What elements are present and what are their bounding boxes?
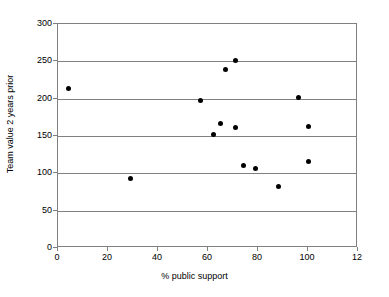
y-axis-title-text: Team value 2 years prior [5, 74, 15, 173]
data-point [306, 124, 311, 129]
plot-area [57, 23, 357, 247]
x-tick-label-40: 40 [152, 252, 162, 262]
x-tick-80 [257, 247, 258, 251]
data-point [276, 184, 281, 189]
gridline-y-250 [58, 61, 356, 62]
x-tick-label-100: 100 [299, 252, 314, 262]
gridline-y-50 [58, 211, 356, 212]
gridline-y-200 [58, 99, 356, 100]
scatter-chart: Team value 2 years prior 050100150200250… [0, 0, 389, 297]
x-tick-20 [107, 247, 108, 251]
x-tick-label-20: 20 [102, 252, 112, 262]
x-tick-60 [207, 247, 208, 251]
y-tick-label-300: 300 [37, 18, 52, 28]
gridline-y-100 [58, 173, 356, 174]
data-point [233, 125, 238, 130]
data-point [253, 166, 258, 171]
data-point [306, 159, 311, 164]
x-tick-40 [157, 247, 158, 251]
y-tick-label-50: 50 [42, 205, 52, 215]
x-axis-title: % public support [0, 271, 389, 281]
x-tick-label-80: 80 [252, 252, 262, 262]
y-axis-title: Team value 2 years prior [0, 0, 20, 247]
data-point [198, 98, 203, 103]
x-tick-120 [357, 247, 358, 251]
data-point [233, 58, 238, 63]
y-tick-label-100: 100 [37, 167, 52, 177]
x-tick-label-0: 0 [54, 252, 59, 262]
gridline-y-150 [58, 136, 356, 137]
x-tick-label-60: 60 [202, 252, 212, 262]
y-tick-label-200: 200 [37, 93, 52, 103]
data-point [218, 121, 223, 126]
y-tick-label-250: 250 [37, 55, 52, 65]
x-tick-label-120: 12 [352, 252, 362, 262]
x-tick-0 [57, 247, 58, 251]
y-tick-label-0: 0 [47, 242, 52, 252]
data-point [223, 67, 228, 72]
data-point [241, 163, 246, 168]
data-point [128, 176, 133, 181]
x-tick-100 [307, 247, 308, 251]
data-point [211, 132, 216, 137]
data-point [66, 86, 71, 91]
y-tick-label-150: 150 [37, 130, 52, 140]
data-point [296, 95, 301, 100]
